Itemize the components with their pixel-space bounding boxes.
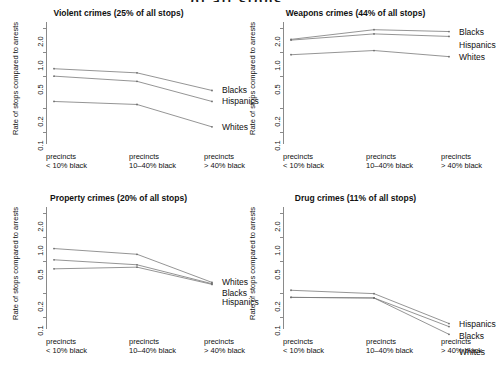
series-line — [54, 69, 212, 91]
x-tick-label-line1: precincts — [46, 337, 87, 346]
x-tick-label-line2: 10–40% black — [366, 346, 413, 355]
series-point — [373, 29, 375, 31]
series-lines-drug — [283, 207, 465, 329]
panel-title-drug: Drug crimes (11% of all stops) — [237, 193, 474, 203]
y-tick-label: 0.2 — [36, 107, 45, 135]
y-tick-label: 1.0 — [36, 237, 45, 265]
series-line — [291, 297, 449, 326]
plot-area-drug: 0.10.20.51.02.0 HispanicsBlacksWhites — [283, 207, 465, 329]
x-tick-label-line1: precincts — [441, 337, 482, 346]
y-tick-label: 2.0 — [273, 28, 282, 56]
series-point — [448, 36, 450, 38]
y-tick-label: 2.0 — [273, 213, 282, 241]
y-tick-label: 0.5 — [36, 261, 45, 289]
x-tick-label-group: precincts10–40% black — [129, 337, 176, 355]
x-tick-label-group: precincts< 10% black — [283, 152, 324, 170]
series-point — [53, 68, 55, 70]
series-point — [448, 333, 450, 335]
series-line — [54, 260, 212, 284]
panel-title-weapons: Weapons crimes (44% of all stops) — [237, 8, 474, 18]
x-tick-label-line1: precincts — [46, 152, 87, 161]
x-tick-label-group: precincts10–40% black — [366, 337, 413, 355]
x-tick-label-group: precincts< 10% black — [46, 152, 87, 170]
series-line — [54, 76, 212, 101]
series-point — [53, 268, 55, 270]
series-point — [136, 266, 138, 268]
x-tick-label-line2: > 40% black — [441, 346, 482, 355]
panel-title-property: Property crimes (20% of all stops) — [0, 193, 237, 203]
series-point — [53, 101, 55, 103]
y-tick-label: 1.0 — [36, 52, 45, 80]
series-line — [291, 51, 449, 57]
x-tick-label-line2: < 10% black — [46, 346, 87, 355]
x-tick-label-line1: precincts — [129, 152, 176, 161]
series-lines-violent — [46, 22, 228, 144]
series-point — [448, 323, 450, 325]
x-tick-label-line2: < 10% black — [283, 346, 324, 355]
series-label-whites: Whites — [459, 52, 485, 62]
series-point — [211, 126, 213, 128]
series-point — [290, 289, 292, 291]
x-tick-label-group: precincts> 40% black — [441, 152, 482, 170]
series-point — [136, 264, 138, 266]
series-lines-weapons — [283, 22, 465, 144]
series-label-blacks: Blacks — [459, 27, 484, 37]
y-tick-label: 0.2 — [36, 292, 45, 320]
series-lines-property — [46, 207, 228, 329]
series-line — [54, 267, 212, 284]
series-point — [373, 293, 375, 295]
y-tick-label: 0.5 — [273, 261, 282, 289]
panel-violent-crimes: Violent crimes (25% of all stops) Rate o… — [0, 0, 237, 184]
series-point — [448, 326, 450, 328]
y-axis-label-violent: Rate of stops compared to arrests — [11, 19, 20, 139]
series-point — [373, 297, 375, 299]
series-point — [53, 75, 55, 77]
x-tick-label-group: precincts10–40% black — [366, 152, 413, 170]
plot-area-violent: 0.10.20.51.02.0 BlacksHispanicsWhites — [46, 22, 228, 144]
panel-title-violent: Violent crimes (25% of all stops) — [0, 8, 237, 18]
x-tick-label-line1: precincts — [441, 152, 482, 161]
panel-drug-crimes: Drug crimes (11% of all stops) Rate of s… — [237, 185, 474, 369]
series-point — [53, 248, 55, 250]
y-axis-label-property: Rate of stops compared to arrests — [11, 204, 20, 324]
y-tick-label: 0.2 — [273, 292, 282, 320]
y-tick-label: 0.2 — [273, 107, 282, 135]
x-tick-label-line2: 10–40% black — [129, 161, 176, 170]
series-point — [373, 50, 375, 52]
y-tick-label: 1.0 — [273, 237, 282, 265]
series-point — [290, 54, 292, 56]
x-tick-label-group: precincts< 10% black — [46, 337, 87, 355]
y-axis-label-weapons: Rate of stops compared to arrests — [248, 19, 257, 139]
x-tick-label-group: precincts< 10% black — [283, 337, 324, 355]
x-tick-label-line2: 10–40% black — [129, 346, 176, 355]
panel-property-crimes: Property crimes (20% of all stops) Rate … — [0, 185, 237, 369]
x-tick-label-group: precincts> 40% black — [441, 337, 482, 355]
series-point — [448, 56, 450, 58]
series-point — [136, 104, 138, 106]
series-point — [136, 80, 138, 82]
y-tick-label: 1.0 — [273, 52, 282, 80]
x-tick-label-line2: > 40% black — [441, 161, 482, 170]
series-point — [373, 33, 375, 35]
plot-area-property: 0.10.20.51.02.0 WhitesBlacksHispanics — [46, 207, 228, 329]
x-tick-label-line1: precincts — [283, 152, 324, 161]
y-tick-label: 0.5 — [36, 76, 45, 104]
y-tick-label: 2.0 — [36, 213, 45, 241]
series-label-hispanics: Hispanics — [459, 40, 496, 50]
y-axis-label-drug: Rate of stops compared to arrests — [248, 204, 257, 324]
x-tick-label-line1: precincts — [366, 337, 413, 346]
series-point — [290, 39, 292, 41]
series-point — [136, 253, 138, 255]
series-point — [211, 90, 213, 92]
series-line — [291, 290, 449, 323]
series-point — [290, 296, 292, 298]
x-tick-label-group: precincts10–40% black — [129, 152, 176, 170]
x-tick-label-line1: precincts — [366, 152, 413, 161]
series-point — [136, 72, 138, 74]
series-line — [54, 101, 212, 126]
x-tick-label-line1: precincts — [283, 337, 324, 346]
series-label-hispanics: Hispanics — [459, 319, 496, 329]
panel-weapons-crimes: Weapons crimes (44% of all stops) Rate o… — [237, 0, 474, 184]
series-point — [211, 101, 213, 103]
